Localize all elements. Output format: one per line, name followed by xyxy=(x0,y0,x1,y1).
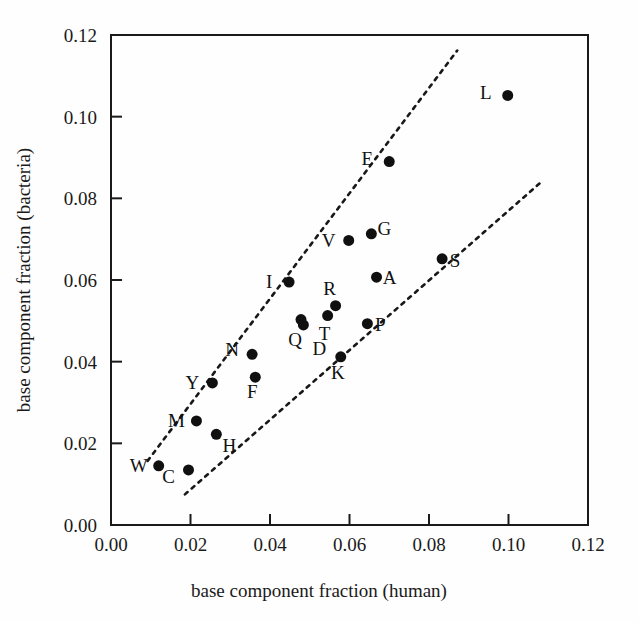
point-label-V: V xyxy=(322,230,336,251)
point-label-L: L xyxy=(480,82,492,103)
data-point-L xyxy=(502,90,513,101)
y-tick-label: 0.02 xyxy=(64,433,97,454)
data-point-A xyxy=(371,272,382,283)
point-label-C: C xyxy=(162,466,175,487)
point-label-M: M xyxy=(168,410,185,431)
point-label-K: K xyxy=(331,362,345,383)
x-tick-label: 0.10 xyxy=(492,534,525,555)
data-point-R xyxy=(330,300,341,311)
x-tick-label: 0.06 xyxy=(333,534,366,555)
point-label-S: S xyxy=(450,250,461,271)
x-axis-title: base component fraction (human) xyxy=(191,580,447,602)
x-tick-label: 0.00 xyxy=(94,534,127,555)
data-point-K xyxy=(335,351,346,362)
scatter-plot-figure: 0.000.020.040.060.080.100.12 0.000.020.0… xyxy=(0,0,638,622)
point-label-N: N xyxy=(225,339,239,360)
x-tick-label: 0.12 xyxy=(571,534,604,555)
data-point-H xyxy=(211,429,222,440)
point-label-E: E xyxy=(361,148,373,169)
data-point-S xyxy=(437,253,448,264)
y-tick-label: 0.08 xyxy=(64,188,97,209)
data-point-E xyxy=(384,156,395,167)
point-label-Q: Q xyxy=(288,329,302,350)
x-tick-label: 0.02 xyxy=(174,534,207,555)
data-point-G xyxy=(366,228,377,239)
y-tick-label: 0.10 xyxy=(64,107,97,128)
y-tick-label: 0.00 xyxy=(64,515,97,536)
y-axis-title: base component fraction (bacteria) xyxy=(13,148,35,412)
point-label-F: F xyxy=(247,381,258,402)
point-label-W: W xyxy=(130,455,148,476)
x-tick-label: 0.08 xyxy=(412,534,445,555)
data-point-N xyxy=(247,349,258,360)
point-label-I: I xyxy=(266,271,272,292)
data-point-I xyxy=(284,277,295,288)
data-point-P xyxy=(362,318,373,329)
plot-canvas: 0.000.020.040.060.080.100.12 0.000.020.0… xyxy=(0,0,638,622)
data-point-C xyxy=(183,464,194,475)
point-label-A: A xyxy=(383,267,397,288)
point-label-T: T xyxy=(319,323,331,344)
data-point-V xyxy=(343,235,354,246)
point-label-R: R xyxy=(323,278,336,299)
point-label-Y: Y xyxy=(185,372,199,393)
data-point-Y xyxy=(207,377,218,388)
y-tick-label: 0.12 xyxy=(64,25,97,46)
y-tick-label: 0.04 xyxy=(64,352,98,373)
y-tick-label: 0.06 xyxy=(64,270,97,291)
x-tick-label: 0.04 xyxy=(253,534,287,555)
point-label-P: P xyxy=(375,314,386,335)
point-label-G: G xyxy=(377,218,391,239)
data-point-M xyxy=(191,415,202,426)
point-label-H: H xyxy=(222,435,236,456)
data-point-T xyxy=(322,310,333,321)
